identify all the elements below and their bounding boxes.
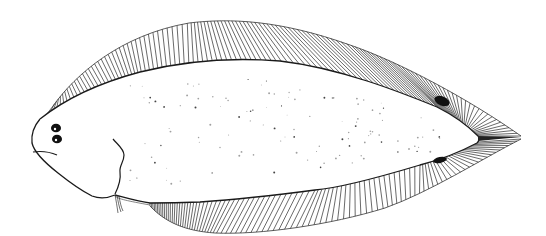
fish-drawing xyxy=(0,0,546,236)
lower-eye xyxy=(52,135,62,144)
upper-eye xyxy=(51,124,61,133)
fish-illustration: Flatfish illustration xyxy=(0,0,546,236)
